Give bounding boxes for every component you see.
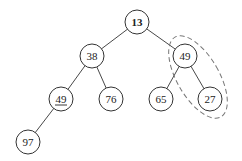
node-97: 97 <box>16 130 40 154</box>
svg-text:27: 27 <box>205 93 217 105</box>
node-38: 38 <box>80 44 104 68</box>
highlight-ellipse <box>157 27 239 128</box>
node-65: 65 <box>149 87 173 111</box>
tree-diagram: 13 38 49 49 76 65 27 97 <box>0 0 242 161</box>
node-49-right: 49 <box>173 44 197 68</box>
edges <box>28 22 210 142</box>
svg-text:38: 38 <box>87 50 99 62</box>
node-76: 76 <box>99 87 123 111</box>
svg-text:49: 49 <box>180 50 192 62</box>
node-27: 27 <box>198 87 222 111</box>
svg-text:49: 49 <box>56 93 68 105</box>
svg-text:97: 97 <box>23 136 35 148</box>
svg-text:76: 76 <box>106 93 118 105</box>
svg-text:65: 65 <box>156 93 168 105</box>
node-13: 13 <box>125 10 149 34</box>
node-49-underlined: 49 <box>49 87 73 111</box>
svg-text:13: 13 <box>132 16 144 28</box>
